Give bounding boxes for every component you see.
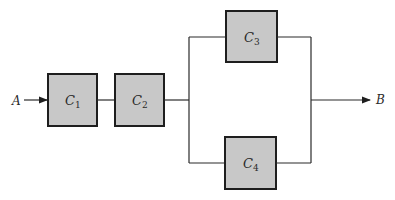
output-label: B xyxy=(375,93,385,107)
input-label: A xyxy=(11,94,21,108)
component-c2: C2 xyxy=(115,74,164,126)
component-c4: C4 xyxy=(225,137,276,189)
component-c3: C3 xyxy=(226,11,277,62)
component-c1: C1 xyxy=(48,74,97,126)
reliability-diagram: A C1 C2 C3 C4 B xyxy=(0,0,395,200)
